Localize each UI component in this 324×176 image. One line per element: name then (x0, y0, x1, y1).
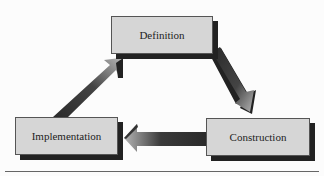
construction-label: Construction (230, 131, 287, 143)
implementation-label: Implementation (32, 130, 102, 142)
arrow-implementation-to-definition (53, 58, 123, 117)
definition-label: Definition (139, 29, 184, 41)
construction-node: Construction (206, 118, 310, 156)
divider-line (5, 171, 319, 172)
implementation-node: Implementation (15, 117, 118, 155)
cycle-diagram: Definition Construction Implementation (0, 0, 324, 176)
definition-node: Definition (111, 16, 213, 54)
arrow-construction-to-implementation (124, 124, 206, 152)
